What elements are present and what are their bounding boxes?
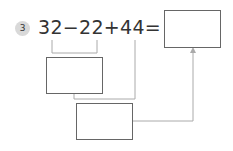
step1-box[interactable] (46, 57, 103, 94)
result-box[interactable] (164, 10, 221, 48)
step2-box[interactable] (76, 103, 133, 140)
